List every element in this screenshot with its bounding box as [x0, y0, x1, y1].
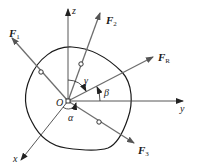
f2-application-point	[79, 62, 83, 66]
gamma-label: γ	[84, 75, 89, 86]
x-axis-label: x	[12, 153, 18, 164]
force-diagram: z y x O F1 F2 FR F3 γ β α	[0, 0, 197, 165]
beta-arc	[97, 87, 100, 101]
force-f1-arrow	[12, 38, 68, 101]
f1-application-point	[39, 70, 43, 74]
alpha-label: α	[68, 112, 74, 123]
x-axis	[21, 101, 68, 160]
f3-label: F3	[137, 144, 149, 158]
z-axis-label: z	[71, 5, 76, 16]
fr-label: FR	[157, 51, 170, 65]
f2-label: F2	[105, 14, 117, 28]
f3-application-point	[97, 120, 101, 124]
origin-label: O	[56, 97, 63, 108]
y-axis-label: y	[179, 103, 185, 114]
f1-label: F1	[8, 27, 20, 41]
origin-point	[66, 99, 70, 103]
alpha-arc	[63, 103, 76, 109]
beta-label: β	[103, 87, 109, 98]
